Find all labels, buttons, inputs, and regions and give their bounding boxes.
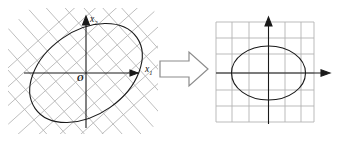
x1-axis-label: x1 <box>145 65 152 76</box>
x2-axis-arrowhead <box>83 16 90 25</box>
x2-axis-label: x2 <box>90 15 97 26</box>
right-panel-aligned-ellipse: y2 y1 O <box>174 0 348 142</box>
y1-axis-arrowhead <box>321 70 330 76</box>
y2-axis-arrowhead <box>265 17 272 26</box>
right-panel-svg <box>174 0 348 142</box>
cartesian-grid <box>216 22 314 122</box>
left-panel-tilted-ellipse: x2 x1 O <box>0 0 174 142</box>
x1-axis-arrowhead <box>130 70 138 76</box>
right-axes <box>216 17 330 124</box>
quadratic-form-rotation-figure: x2 x1 O <box>0 0 348 142</box>
left-origin-label: O <box>77 74 84 83</box>
